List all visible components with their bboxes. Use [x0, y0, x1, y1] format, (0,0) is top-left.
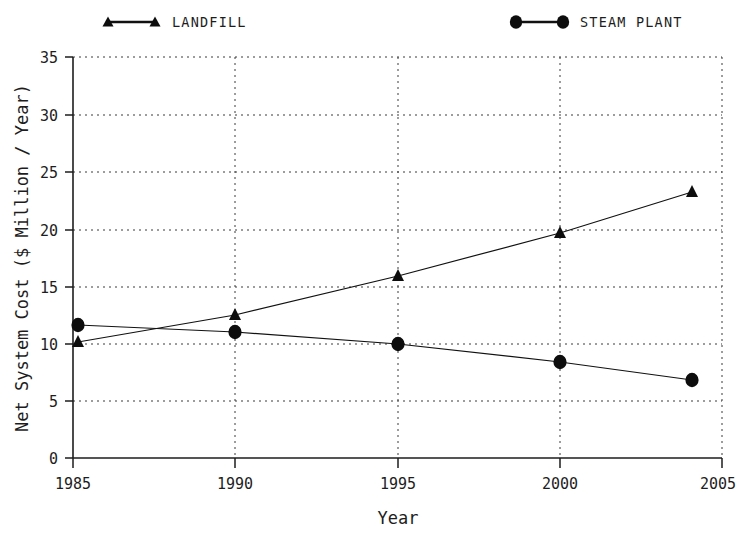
y-tick-label: 35	[40, 49, 58, 67]
legend-item-landfill[interactable]: LANDFILL	[103, 14, 247, 30]
y-axis-ticks	[65, 57, 73, 458]
data-point-steam-plant-1990[interactable]	[228, 325, 241, 339]
legend-label-steam-plant: STEAM PLANT	[580, 14, 683, 30]
chart-canvas: LANDFILL STEAM PLANT	[0, 0, 743, 539]
axes: 35 30 25 20 15 10 5 0 1985 1990	[12, 49, 736, 528]
y-tick-label: 5	[49, 393, 58, 411]
chart-figure: LANDFILL STEAM PLANT	[0, 0, 743, 539]
chart-legend: LANDFILL STEAM PLANT	[103, 14, 683, 30]
y-tick-label: 30	[40, 107, 58, 125]
gridlines	[73, 57, 722, 458]
legend-label-landfill: LANDFILL	[172, 14, 247, 30]
x-axis-title: Year	[378, 508, 419, 528]
circle-marker-icon	[510, 15, 522, 29]
x-tick-label: 1990	[217, 475, 253, 493]
x-tick-label: 1995	[380, 475, 416, 493]
data-point-steam-plant-2000[interactable]	[553, 355, 566, 369]
data-point-steam-plant-2004[interactable]	[685, 373, 698, 387]
data-point-steam-plant-1985[interactable]	[71, 318, 84, 332]
y-tick-label: 15	[40, 279, 58, 297]
x-tick-label: 2000	[542, 475, 578, 493]
x-axis-tick-labels: 1985 1990 1995 2000 2005	[55, 475, 736, 493]
data-point-steam-plant-1995[interactable]	[391, 337, 404, 351]
series-line-landfill	[78, 192, 692, 342]
x-tick-label: 2005	[700, 475, 736, 493]
y-tick-label: 25	[40, 164, 58, 182]
y-axis-tick-labels: 35 30 25 20 15 10 5 0	[40, 49, 58, 468]
x-axis-ticks	[73, 458, 722, 468]
y-tick-label: 20	[40, 222, 58, 240]
y-axis-title: Net System Cost ($ Million / Year)	[12, 84, 32, 432]
circle-marker-icon	[557, 15, 569, 29]
y-tick-label: 10	[40, 336, 58, 354]
legend-item-steam-plant[interactable]: STEAM PLANT	[510, 14, 683, 30]
series-landfill	[72, 185, 698, 347]
series-steam-plant	[71, 318, 698, 387]
x-tick-label: 1985	[55, 475, 91, 493]
series-line-steam-plant	[78, 325, 692, 380]
y-tick-label: 0	[49, 450, 58, 468]
data-point-landfill-2004[interactable]	[686, 185, 698, 197]
